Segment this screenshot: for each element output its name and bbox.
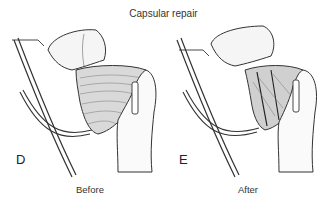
panel-after: E	[163, 22, 326, 182]
caption-before: Before	[50, 184, 130, 195]
panel-letter-d: D	[16, 152, 25, 167]
caption-after: After	[208, 184, 288, 195]
panel-letter-e: E	[179, 152, 188, 167]
panel-before: D	[0, 22, 163, 182]
figure-title: Capsular repair	[0, 8, 327, 19]
